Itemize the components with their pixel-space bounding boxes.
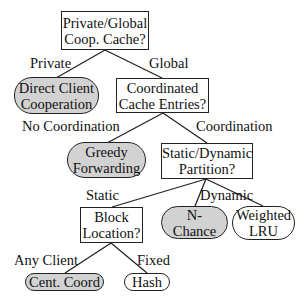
node-text: Chance — [173, 223, 216, 239]
partition-decision-node: Static/Dynamic Partition? — [161, 143, 253, 179]
edge-label-coordination: Coordination — [196, 118, 273, 134]
leaf-hash: Hash — [124, 273, 170, 291]
node-text: Partition? — [179, 161, 235, 177]
leaf-direct-client-cooperation: Direct Client Cooperation — [14, 77, 99, 114]
node-text: Coop. Cache? — [64, 31, 145, 47]
node-text: Cooperation — [21, 96, 93, 112]
edge-label-any-client: Any Client — [14, 252, 78, 268]
leaf-cent-coord: Cent. Coord — [25, 273, 104, 291]
node-text: Block — [94, 209, 129, 225]
node-text: Weighted — [236, 207, 291, 223]
node-text: LRU — [249, 223, 278, 239]
edge-label-dynamic: Dynamic — [200, 187, 253, 203]
node-text: Greedy — [85, 144, 128, 160]
root-decision-node: Private/Global Coop. Cache? — [61, 11, 149, 50]
leaf-weighted-lru: Weighted LRU — [232, 206, 295, 240]
node-text: Hash — [132, 274, 162, 290]
edge-label-fixed: Fixed — [137, 252, 170, 268]
block-location-decision-node: Block Location? — [80, 207, 143, 243]
leaf-greedy-forwarding: Greedy Forwarding — [67, 142, 146, 178]
node-text: Coordinated — [127, 80, 199, 96]
coordinated-decision-node: Coordinated Cache Entries? — [116, 78, 209, 113]
node-text: Cache Entries? — [119, 96, 206, 112]
node-text: Private/Global — [63, 15, 148, 31]
node-text: Cent. Coord — [29, 274, 100, 290]
node-text: N- — [187, 207, 202, 223]
edge-label-private: Private — [30, 55, 71, 71]
edge-label-no-coordination: No Coordination — [22, 118, 120, 134]
node-text: Forwarding — [73, 160, 141, 176]
node-text: Static/Dynamic — [162, 145, 252, 161]
node-text: Location? — [83, 225, 141, 241]
edge-label-static: Static — [86, 187, 119, 203]
leaf-n-chance: N- Chance — [161, 206, 228, 239]
node-text: Direct Client — [19, 80, 94, 96]
edge-label-global: Global — [149, 55, 188, 71]
